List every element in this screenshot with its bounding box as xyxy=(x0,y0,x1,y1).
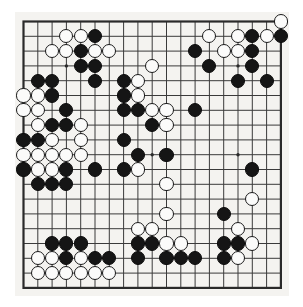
white-stone[interactable] xyxy=(131,222,145,236)
white-stone[interactable] xyxy=(159,118,173,132)
white-stone[interactable] xyxy=(45,162,59,176)
white-stone[interactable] xyxy=(159,177,173,191)
black-stone[interactable] xyxy=(16,133,30,147)
white-stone[interactable] xyxy=(274,14,288,28)
black-stone[interactable] xyxy=(45,236,59,250)
white-stone[interactable] xyxy=(231,222,245,236)
white-stone[interactable] xyxy=(159,207,173,221)
black-stone[interactable] xyxy=(217,236,231,250)
star-point xyxy=(236,64,239,67)
white-stone[interactable] xyxy=(45,148,59,162)
goban[interactable] xyxy=(15,12,289,296)
white-stone[interactable] xyxy=(31,162,45,176)
white-stone[interactable] xyxy=(74,148,88,162)
black-stone[interactable] xyxy=(88,74,102,88)
white-stone[interactable] xyxy=(260,29,274,43)
white-stone[interactable] xyxy=(16,88,30,102)
white-stone[interactable] xyxy=(31,118,45,132)
black-stone[interactable] xyxy=(45,88,59,102)
black-stone[interactable] xyxy=(131,236,145,250)
black-stone[interactable] xyxy=(88,162,102,176)
white-stone[interactable] xyxy=(131,88,145,102)
white-stone[interactable] xyxy=(245,236,259,250)
black-stone[interactable] xyxy=(117,88,131,102)
white-stone[interactable] xyxy=(74,29,88,43)
white-stone[interactable] xyxy=(31,266,45,280)
white-stone[interactable] xyxy=(145,222,159,236)
white-stone[interactable] xyxy=(174,236,188,250)
black-stone[interactable] xyxy=(231,74,245,88)
black-stone[interactable] xyxy=(31,133,45,147)
black-stone[interactable] xyxy=(31,74,45,88)
black-stone[interactable] xyxy=(74,236,88,250)
black-stone[interactable] xyxy=(16,162,30,176)
white-stone[interactable] xyxy=(131,162,145,176)
white-stone[interactable] xyxy=(16,148,30,162)
black-stone[interactable] xyxy=(260,74,274,88)
black-stone[interactable] xyxy=(231,236,245,250)
black-stone[interactable] xyxy=(117,103,131,117)
black-stone[interactable] xyxy=(217,207,231,221)
black-stone[interactable] xyxy=(59,236,73,250)
black-stone[interactable] xyxy=(88,59,102,73)
white-stone[interactable] xyxy=(131,74,145,88)
white-stone[interactable] xyxy=(74,251,88,265)
black-stone[interactable] xyxy=(117,74,131,88)
black-stone[interactable] xyxy=(59,162,73,176)
black-stone[interactable] xyxy=(74,44,88,58)
star-point xyxy=(65,64,68,67)
star-point xyxy=(236,153,239,156)
white-stone[interactable] xyxy=(74,118,88,132)
white-stone[interactable] xyxy=(31,148,45,162)
black-stone[interactable] xyxy=(159,148,173,162)
white-stone[interactable] xyxy=(74,266,88,280)
go-board-figure xyxy=(0,0,303,307)
black-stone[interactable] xyxy=(131,148,145,162)
black-stone[interactable] xyxy=(217,251,231,265)
black-stone[interactable] xyxy=(145,236,159,250)
black-stone[interactable] xyxy=(45,74,59,88)
white-stone[interactable] xyxy=(159,236,173,250)
star-point xyxy=(151,153,154,156)
white-stone[interactable] xyxy=(45,133,59,147)
white-stone[interactable] xyxy=(31,88,45,102)
black-stone[interactable] xyxy=(117,162,131,176)
black-stone[interactable] xyxy=(159,251,173,265)
black-stone[interactable] xyxy=(245,162,259,176)
black-stone[interactable] xyxy=(117,133,131,147)
black-stone[interactable] xyxy=(74,59,88,73)
white-stone[interactable] xyxy=(217,44,231,58)
white-stone[interactable] xyxy=(159,103,173,117)
white-stone[interactable] xyxy=(16,103,30,117)
goban-inner xyxy=(15,12,289,296)
white-stone[interactable] xyxy=(74,133,88,147)
